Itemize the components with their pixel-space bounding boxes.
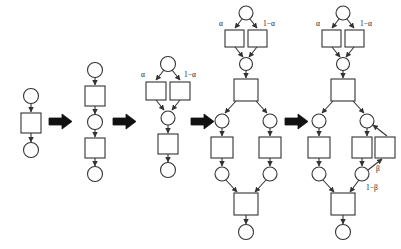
separator-1 [49,114,72,129]
alpha-label: α [219,19,223,28]
one-minus-beta-label: 1−β [366,183,378,192]
arc [332,47,340,57]
transition-node [308,137,330,158]
fork-transition-node [331,79,355,101]
stage-5-net [308,6,395,240]
arc-choice-one-minus-alpha [250,19,257,28]
loop-transition-node [375,137,395,158]
arc-choice-alpha [235,19,242,28]
one-minus-alpha-label: 1−α [263,19,275,28]
place-node [263,167,277,181]
arc-choice-alpha [156,70,164,80]
place-node [312,167,326,181]
alpha-label: α [141,70,145,79]
transition-node [352,137,372,158]
one-minus-alpha-label: 1−α [184,70,196,79]
place-node [336,6,350,20]
place-node [312,114,326,128]
join-transition-node [331,193,355,215]
figure-canvas: α 1−α [0,0,401,249]
place-node [239,6,253,20]
transition-node [85,86,105,106]
place-node [337,58,350,71]
place-node [161,111,175,125]
arc-choice-alpha [332,19,339,28]
place-node [24,89,39,104]
stage-1-net [21,89,41,158]
arc-fork-left [225,101,236,113]
transition-node [170,82,190,100]
separator-4 [285,114,308,129]
transition-node [85,138,105,158]
transition-node [322,30,341,47]
refinement-arrow-icon [191,114,214,129]
beta-label: β [376,164,380,173]
place-node [263,114,277,128]
arc-fork-right [353,101,364,113]
place-node [215,114,229,128]
arc-join-left [226,180,237,192]
separator-2 [113,114,136,129]
alpha-label: α [316,19,320,28]
place-node [336,225,351,240]
transition-node [211,137,233,158]
fork-transition-node [234,79,258,101]
transition-node [345,30,364,47]
transition-node [225,30,244,47]
place-node [161,57,176,72]
place-node [161,163,176,178]
arc [346,47,354,57]
arc-fork-left [322,101,333,113]
join-transition-node [234,193,258,215]
place-node [239,225,254,240]
transition-node [158,134,178,154]
place-node [240,58,253,71]
refinement-arrow-icon [49,114,72,129]
refinement-arrow-icon [285,114,308,129]
place-node [88,167,103,182]
arc [156,100,164,110]
stage-4-net [211,6,281,240]
transition-node [146,82,166,100]
arc [249,47,257,57]
place-node [88,63,103,78]
stage-2-net [85,63,105,182]
arc [235,47,243,57]
petri-net-refinement-diagram: α 1−α [0,0,401,249]
arc-join-left [323,180,334,192]
transition-node [259,137,281,158]
arc [172,100,180,110]
arc-fork-right [256,101,267,113]
arc-choice-one-minus-alpha [347,19,354,28]
transition-node [248,30,267,47]
refinement-arrow-icon [113,114,136,129]
transition-node [21,113,41,133]
arc-choice-one-minus-alpha [172,70,180,80]
place-node [360,114,374,128]
arc-loop-return [373,125,387,136]
arc-join-right-one-minus-beta [350,180,359,192]
place-node [215,167,229,181]
place-node [88,115,103,130]
separator-3 [191,114,214,129]
arc-join-right [255,180,266,192]
place-node [24,143,39,158]
place-node [355,167,369,181]
one-minus-alpha-label: 1−α [360,19,372,28]
